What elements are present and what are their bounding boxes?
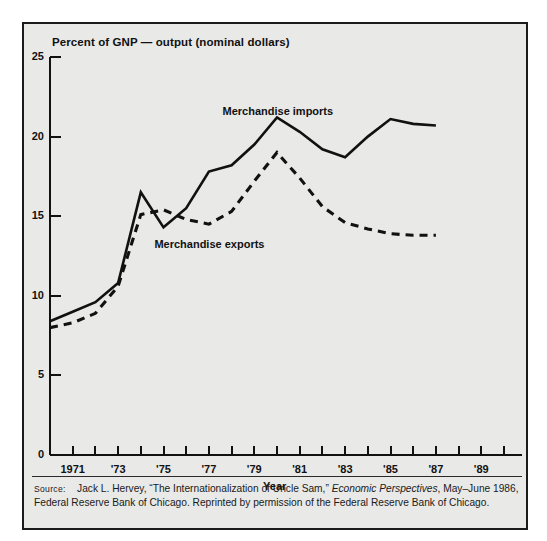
x-tick-label: '89 <box>461 463 501 475</box>
chart-canvas <box>24 24 530 532</box>
source-note: Source: Jack L. Hervey, “The Internation… <box>34 482 522 509</box>
x-tick-label: 1971 <box>53 463 93 475</box>
x-tick-label: '87 <box>416 463 456 475</box>
y-tick-label: 20 <box>20 130 44 142</box>
x-tick-label: '79 <box>234 463 274 475</box>
source-text-part1: Jack L. Hervey, “The Internationalizatio… <box>77 483 332 494</box>
plot-area: 0510152025 1971'73'75'77'79'81'83'85'87'… <box>24 24 530 532</box>
y-tick-label: 15 <box>20 209 44 221</box>
source-label: Source: <box>34 484 66 494</box>
figure-page: Percent of GNP — output (nominal dollars… <box>0 0 547 541</box>
x-tick-label: '85 <box>371 463 411 475</box>
y-tick-label: 25 <box>20 50 44 62</box>
x-tick-label: '73 <box>98 463 138 475</box>
x-tick-label: '77 <box>189 463 229 475</box>
source-publication: Economic Perspectives <box>332 483 438 494</box>
source-divider <box>32 476 522 477</box>
figure-frame: Percent of GNP — output (nominal dollars… <box>22 22 528 530</box>
x-tick-label: '83 <box>325 463 365 475</box>
x-tick-label: '81 <box>280 463 320 475</box>
y-tick-label: 5 <box>20 368 44 380</box>
series-lines <box>50 118 436 328</box>
y-tick-label: 10 <box>20 289 44 301</box>
y-tick-label: 0 <box>20 448 44 460</box>
x-tick-label: '75 <box>144 463 184 475</box>
series-line-imports <box>50 118 436 322</box>
series-label-exports: Merchandise exports <box>154 238 264 250</box>
series-label-imports: Merchandise imports <box>223 105 334 117</box>
